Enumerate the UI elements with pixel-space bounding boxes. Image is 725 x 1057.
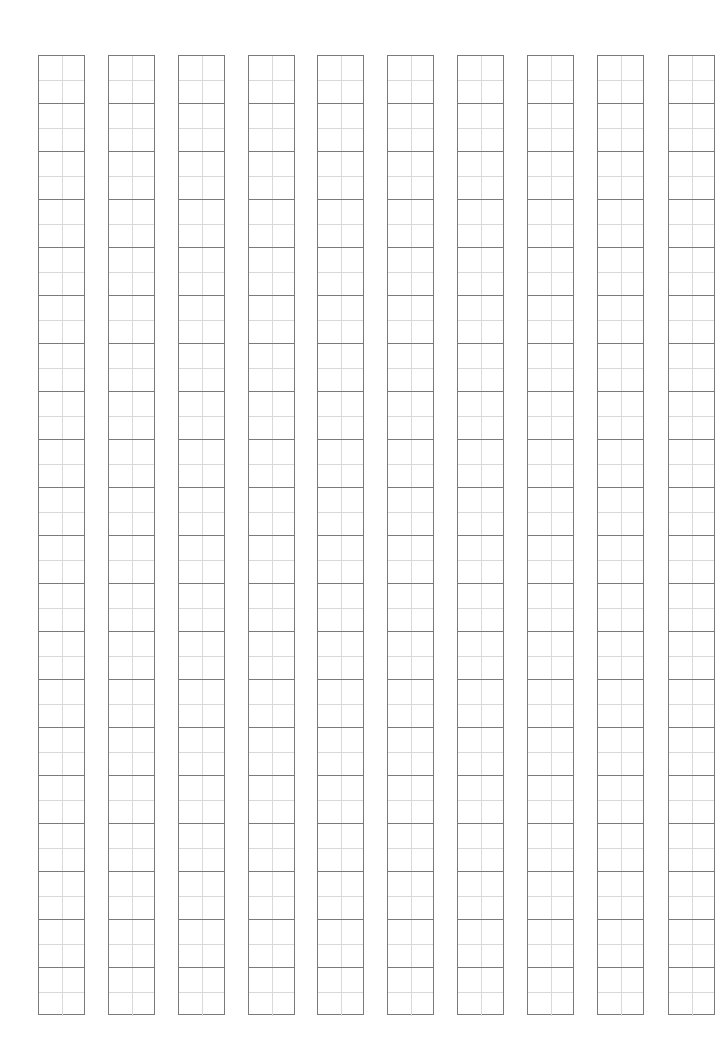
horizontal-guide-line: [388, 944, 433, 945]
horizontal-guide-line: [179, 128, 224, 129]
horizontal-guide-line: [388, 656, 433, 657]
grid-cell: [598, 680, 643, 728]
grid-cell: [598, 776, 643, 824]
horizontal-guide-line: [318, 224, 363, 225]
grid-cell: [39, 728, 84, 776]
horizontal-guide-line: [528, 80, 573, 81]
grid-cell: [528, 488, 573, 536]
horizontal-guide-line: [179, 560, 224, 561]
grid-cell: [109, 968, 154, 1016]
grid-cell: [388, 344, 433, 392]
grid-cell: [249, 392, 294, 440]
grid-cell: [598, 248, 643, 296]
horizontal-guide-line: [598, 416, 643, 417]
horizontal-guide-line: [458, 944, 503, 945]
grid-cell: [669, 728, 714, 776]
horizontal-guide-line: [669, 368, 714, 369]
horizontal-guide-line: [458, 224, 503, 225]
horizontal-guide-line: [39, 368, 84, 369]
horizontal-guide-line: [458, 464, 503, 465]
grid-cell: [39, 680, 84, 728]
horizontal-guide-line: [109, 512, 154, 513]
grid-cell: [249, 824, 294, 872]
grid-cell: [318, 296, 363, 344]
grid-cell: [179, 680, 224, 728]
grid-cell: [528, 728, 573, 776]
grid-column-3: [178, 55, 225, 1015]
horizontal-guide-line: [318, 704, 363, 705]
horizontal-guide-line: [528, 704, 573, 705]
horizontal-guide-line: [669, 512, 714, 513]
grid-cell: [318, 872, 363, 920]
horizontal-guide-line: [109, 128, 154, 129]
horizontal-guide-line: [669, 320, 714, 321]
horizontal-guide-line: [249, 176, 294, 177]
grid-cell: [39, 104, 84, 152]
grid-cell: [39, 536, 84, 584]
horizontal-guide-line: [179, 224, 224, 225]
horizontal-guide-line: [249, 944, 294, 945]
grid-cell: [458, 296, 503, 344]
horizontal-guide-line: [179, 848, 224, 849]
horizontal-guide-line: [39, 944, 84, 945]
grid-cell: [458, 824, 503, 872]
horizontal-guide-line: [388, 608, 433, 609]
grid-cell: [179, 584, 224, 632]
horizontal-guide-line: [109, 656, 154, 657]
grid-cell: [598, 584, 643, 632]
grid-cell: [458, 344, 503, 392]
grid-cell: [528, 344, 573, 392]
grid-cell: [388, 824, 433, 872]
horizontal-guide-line: [669, 704, 714, 705]
horizontal-guide-line: [598, 224, 643, 225]
grid-cell: [598, 200, 643, 248]
grid-cell: [458, 536, 503, 584]
horizontal-guide-line: [669, 800, 714, 801]
grid-cell: [388, 728, 433, 776]
grid-cell: [388, 152, 433, 200]
grid-cell: [109, 200, 154, 248]
horizontal-guide-line: [318, 368, 363, 369]
horizontal-guide-line: [249, 464, 294, 465]
grid-cell: [598, 536, 643, 584]
horizontal-guide-line: [39, 656, 84, 657]
grid-cell: [318, 968, 363, 1016]
grid-cell: [39, 968, 84, 1016]
grid-cell: [458, 920, 503, 968]
horizontal-guide-line: [109, 416, 154, 417]
grid-cell: [109, 776, 154, 824]
horizontal-guide-line: [528, 752, 573, 753]
horizontal-guide-line: [39, 464, 84, 465]
horizontal-guide-line: [318, 128, 363, 129]
grid-cell: [669, 56, 714, 104]
grid-cell: [669, 392, 714, 440]
grid-cell: [179, 872, 224, 920]
horizontal-guide-line: [318, 848, 363, 849]
horizontal-guide-line: [249, 608, 294, 609]
grid-cell: [318, 728, 363, 776]
horizontal-guide-line: [528, 128, 573, 129]
horizontal-guide-line: [39, 416, 84, 417]
grid-cell: [669, 776, 714, 824]
horizontal-guide-line: [318, 272, 363, 273]
horizontal-guide-line: [179, 176, 224, 177]
horizontal-guide-line: [458, 176, 503, 177]
horizontal-guide-line: [318, 176, 363, 177]
grid-cell: [598, 344, 643, 392]
horizontal-guide-line: [388, 272, 433, 273]
horizontal-guide-line: [528, 272, 573, 273]
grid-cell: [388, 536, 433, 584]
horizontal-guide-line: [388, 80, 433, 81]
grid-cell: [388, 584, 433, 632]
grid-cell: [598, 968, 643, 1016]
grid-cell: [39, 776, 84, 824]
grid-cell: [109, 248, 154, 296]
grid-column-5: [317, 55, 364, 1015]
grid-cell: [179, 200, 224, 248]
grid-cell: [318, 248, 363, 296]
horizontal-guide-line: [388, 848, 433, 849]
horizontal-guide-line: [318, 560, 363, 561]
horizontal-guide-line: [528, 320, 573, 321]
horizontal-guide-line: [249, 752, 294, 753]
horizontal-guide-line: [528, 656, 573, 657]
